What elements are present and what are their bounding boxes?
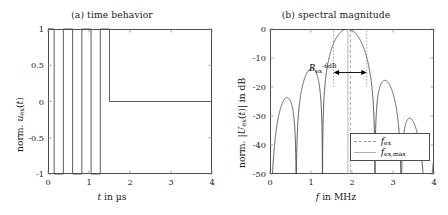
panel-b-ytick-0: 0	[248, 24, 266, 34]
panel-b-xtick-2: 2	[349, 177, 354, 187]
panel-b-xtick-1: 1	[308, 177, 313, 187]
legend: fex fex,max	[350, 133, 430, 161]
panel-a-xtick-3: 3	[168, 177, 173, 187]
legend-swatch-solid	[354, 152, 376, 153]
panel-a-xtick-4: 4	[209, 177, 214, 187]
legend-item-fexmax: fex,max	[354, 147, 426, 158]
panel-b-ylabel: norm. |Uex(t)| in dB	[236, 78, 248, 168]
panel-b-ytick-5: -50	[239, 169, 266, 179]
panel-a-xtick-2: 2	[127, 177, 132, 187]
panel-a-xlabel: t in µs	[0, 191, 224, 202]
legend-label-fexmax: fex,max	[381, 147, 406, 157]
panel-a-ytick-0: 1	[26, 24, 44, 34]
panel-a-ytick-2: 0	[26, 97, 44, 107]
legend-label-fex: fex	[381, 136, 391, 146]
panel-a-ytick-1: 0.5	[20, 60, 44, 70]
panel-spectral-magnitude: (b) spectral magnitude 0 -10 -20 -30 -40…	[224, 0, 448, 215]
panel-b-xtick-4: 4	[431, 177, 436, 187]
panel-b-xlabel: f in MHz	[224, 191, 448, 202]
panel-b-xtick-0: 0	[267, 177, 272, 187]
figure-root: (a) time behavior 1 0.5 0 -0.5 -1 0 1 2 …	[0, 0, 448, 215]
panel-a-ytick-4: -1	[23, 169, 44, 179]
legend-swatch-dashed	[354, 141, 376, 142]
panel-b-ytick-1: -10	[239, 53, 266, 63]
panel-a-xtick-0: 0	[45, 177, 50, 187]
panel-a-xtick-1: 1	[86, 177, 91, 187]
bandwidth-annotation: Bex-6dB	[309, 62, 336, 74]
legend-item-fex: fex	[354, 136, 426, 147]
panel-time-behavior: (a) time behavior 1 0.5 0 -0.5 -1 0 1 2 …	[0, 0, 224, 215]
panel-b-xtick-3: 3	[390, 177, 395, 187]
panel-a-ylabel: norm. uex(t)	[14, 97, 26, 152]
